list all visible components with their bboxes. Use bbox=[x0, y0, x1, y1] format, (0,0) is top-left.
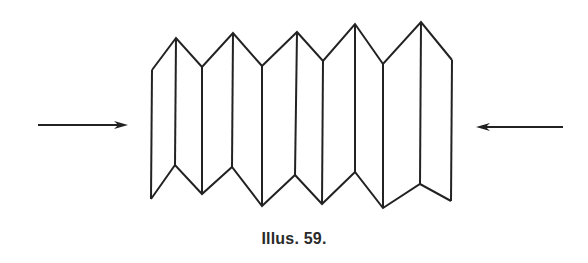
figure-caption: Illus. 59. bbox=[0, 230, 588, 248]
left-arrow-icon bbox=[38, 121, 128, 129]
bellows-fold-line bbox=[151, 70, 152, 199]
bellows-fold-line bbox=[232, 33, 233, 167]
illustration-canvas: Illus. 59. bbox=[0, 0, 588, 263]
bellows-fold-line bbox=[420, 22, 421, 184]
right-arrow-icon bbox=[476, 123, 563, 131]
bellows-diagram bbox=[0, 0, 588, 263]
bellows-bottom-edge bbox=[151, 165, 451, 208]
bellows-top-edge bbox=[152, 22, 452, 70]
bellows-fold-line bbox=[451, 60, 452, 201]
bellows-fold-line bbox=[322, 61, 323, 204]
bellows-fold-line bbox=[175, 38, 176, 165]
compression-arrows bbox=[38, 121, 563, 131]
bellows-fold-line bbox=[295, 32, 297, 175]
folded-bellows bbox=[151, 22, 452, 208]
